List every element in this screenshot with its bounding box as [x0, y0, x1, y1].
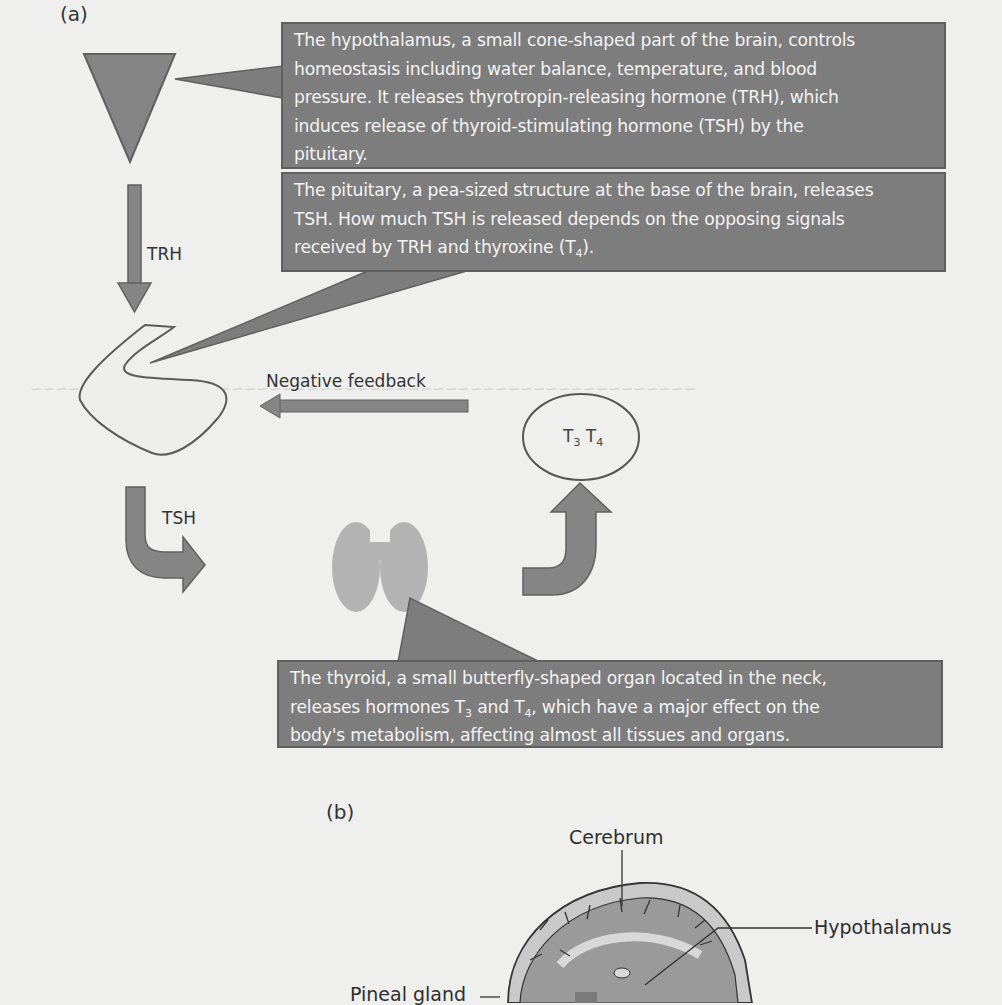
- callout-line: The thyroid, a small butterfly-shaped or…: [290, 664, 931, 693]
- hypothalamus-callout: The hypothalamus, a small cone-shaped pa…: [281, 22, 946, 169]
- brain-sagittal-illustration: [508, 883, 752, 1003]
- hypothalamus-brain-label: Hypothalamus: [814, 916, 952, 938]
- thyroid-callout-pointer: [398, 598, 540, 662]
- callout-line: homeostasis including water balance, tem…: [294, 55, 934, 84]
- thyroid-callout: The thyroid, a small butterfly-shaped or…: [277, 660, 943, 748]
- pineal-gland-label: Pineal gland: [350, 983, 466, 1005]
- callout-line: body's metabolism, affecting almost all …: [290, 721, 931, 750]
- callout-line: The pituitary, a pea-sized structure at …: [294, 176, 934, 205]
- thyroid-gland-icon: [332, 520, 428, 612]
- hypothalamus-cone-icon: [84, 54, 175, 162]
- callout-line: received by TRH and thyroxine (T4).: [294, 233, 934, 262]
- callout-line: pituitary.: [294, 140, 934, 169]
- negative-feedback-arrow-icon: [260, 394, 468, 418]
- cerebrum-label: Cerebrum: [569, 826, 663, 848]
- callout-line: pressure. It releases thyrotropin-releas…: [294, 83, 934, 112]
- callout-line: TSH. How much TSH is released depends on…: [294, 205, 934, 234]
- hormone-output-arrow-icon: [523, 483, 611, 595]
- pituitary-callout: The pituitary, a pea-sized structure at …: [281, 172, 946, 272]
- callout-line: induces release of thyroid-stimulating h…: [294, 112, 934, 141]
- hypothalamus-callout-pointer: [175, 66, 283, 98]
- t3-t4-label: T3 T4: [563, 426, 603, 446]
- tsh-label: TSH: [162, 508, 196, 528]
- callout-line: The hypothalamus, a small cone-shaped pa…: [294, 26, 934, 55]
- tsh-arrow-icon: [126, 487, 205, 592]
- trh-label: TRH: [147, 244, 182, 264]
- pituitary-callout-pointer: [150, 270, 470, 363]
- negative-feedback-label: Negative feedback: [266, 371, 426, 391]
- callout-line: releases hormones T3 and T4, which have …: [290, 693, 931, 722]
